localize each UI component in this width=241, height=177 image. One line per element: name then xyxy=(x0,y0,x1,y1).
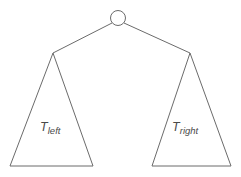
root-node-circle xyxy=(111,11,126,26)
root-to-left-subtree-edge xyxy=(53,23,112,53)
right-subtree-triangle xyxy=(152,53,231,166)
tree-graphics xyxy=(0,0,241,177)
left-subtree-triangle xyxy=(10,53,93,166)
root-to-right-subtree-edge xyxy=(124,23,190,53)
left-subtree-outline xyxy=(10,53,93,166)
right-subtree-outline xyxy=(152,53,231,166)
binary-tree-diagram: Tleft Tright xyxy=(0,0,241,177)
edge-group xyxy=(53,23,190,53)
